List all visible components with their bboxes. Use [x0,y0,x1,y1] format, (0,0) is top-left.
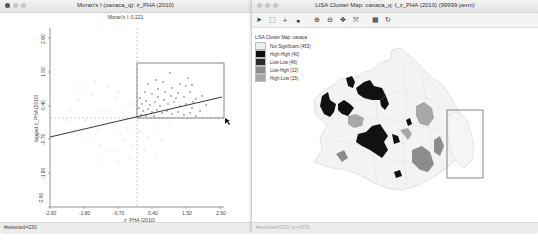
y-tick: 0.40 [40,100,46,110]
y-tick: 1.50 [40,67,46,77]
moran-scatter-window: Moran's I (oaxaca_q): z_PHA (2010) Moran… [0,0,251,232]
lisa-cluster-map-window: LISA Cluster Map: oaxaca_q: I_z_PHA (201… [251,0,538,232]
status-bar: #selected=230, s:n=575 [252,222,538,232]
x-tick: -0.70 [113,210,124,216]
y-axis-label: lagged z_PHA (2010) [33,94,39,142]
y-tick: -1.80 [40,168,46,179]
x-tick: -2.90 [45,210,56,216]
y-tick: 2.60 [40,34,46,44]
oaxaca-map[interactable] [252,0,538,232]
x-tick: 1.50 [182,210,192,216]
x-tick: -1.80 [79,210,90,216]
x-tick: 2.60 [216,210,226,216]
y-tick: -2.90 [38,193,44,204]
status-bar: #selected=230 [0,222,251,232]
x-tick: 0.40 [148,210,158,216]
y-tick: -0.70 [40,134,46,145]
